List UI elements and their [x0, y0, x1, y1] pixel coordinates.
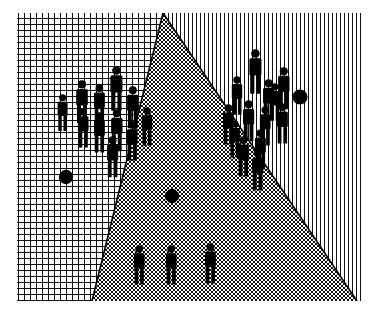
circle-marker	[59, 170, 73, 184]
circle-marker	[165, 189, 179, 203]
classification-region-figure	[0, 0, 378, 318]
mask-bottom	[0, 301, 378, 318]
circle-marker	[292, 89, 307, 104]
mask-top	[0, 0, 378, 13]
mask-left	[0, 0, 17, 318]
mask-right	[361, 0, 378, 318]
plot-svg	[0, 0, 378, 318]
region-fills	[17, 13, 361, 301]
